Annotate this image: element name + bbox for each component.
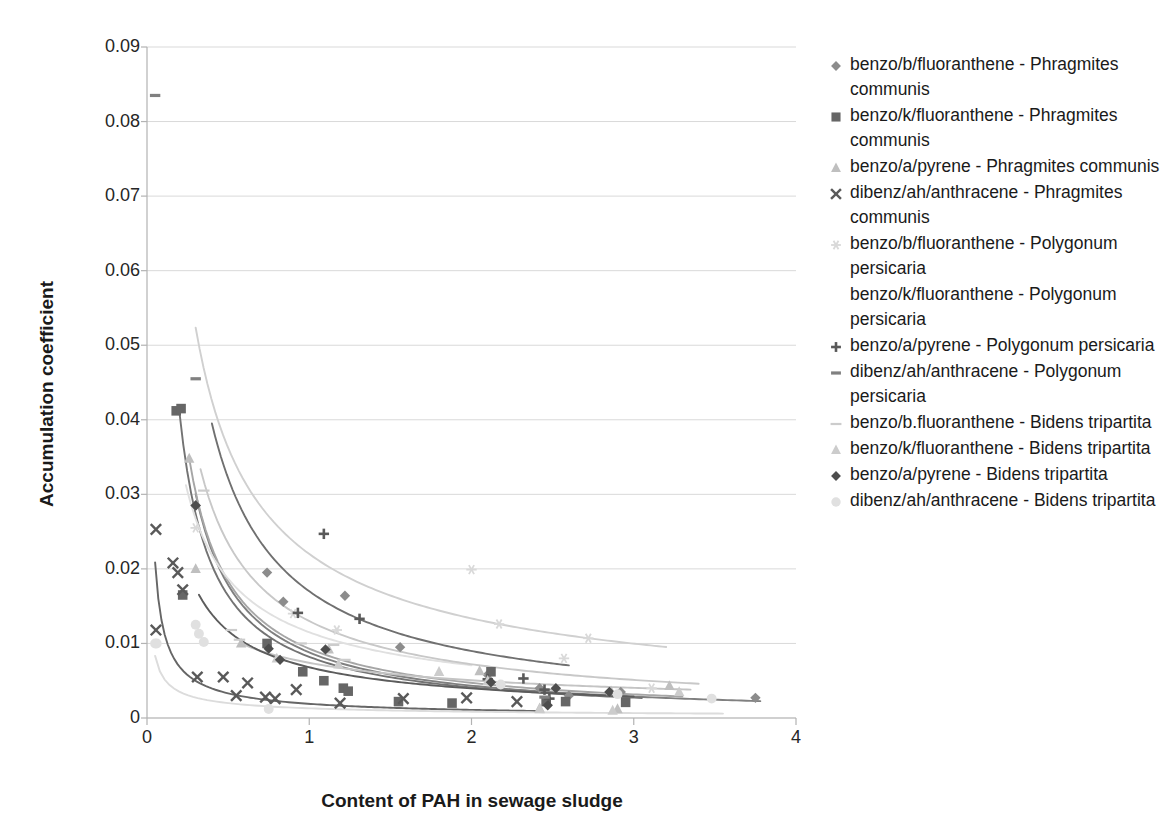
legend-item[interactable]: benzo/a/pyrene - Polygonum persicaria: [826, 333, 1171, 358]
marker-line: [198, 490, 209, 492]
marker-asterisk: [831, 241, 841, 250]
marker-plus: [354, 614, 364, 624]
legend-item[interactable]: benzo/k/fluoranthene - Phragmites commun…: [826, 103, 1171, 153]
marker-plus: [518, 673, 528, 683]
marker-line: [328, 644, 339, 646]
legend-label: benzo/b.fluoranthene - Bidens tripartita: [850, 410, 1152, 435]
marker-diamond: [278, 596, 288, 606]
legend-label: benzo/k/fluoranthene - Bidens tripartita: [850, 436, 1151, 461]
legend-item[interactable]: dibenz/ah/anthracene - Bidens tripartita: [826, 488, 1171, 513]
legend-item[interactable]: benzo/a/pyrene - Bidens tripartita: [826, 462, 1171, 487]
marker-square: [561, 697, 571, 707]
marker-cross: [218, 672, 228, 682]
marker-cross: [335, 698, 345, 708]
legend-item[interactable]: dibenz/ah/anthracene - Phragmites commun…: [826, 180, 1171, 230]
marker-line: [831, 423, 842, 425]
marker-square: [447, 698, 457, 708]
marker-square: [343, 686, 353, 696]
marker-asterisk: [583, 634, 593, 643]
marker-dash: [539, 696, 549, 699]
legend-label: dibenz/ah/anthracene - Polygonum persica…: [850, 359, 1171, 409]
legend-marker-diamond-icon: [826, 52, 850, 74]
axis-lines: [141, 47, 796, 725]
marker-cross: [831, 189, 841, 199]
legend-marker-asterisk-icon: [826, 231, 850, 253]
legend-marker-dash-icon: [826, 359, 850, 381]
marker-dash: [150, 94, 160, 97]
legend-item[interactable]: benzo/k/fluoranthene - Polygonum persica…: [826, 282, 1171, 332]
marker-cross: [512, 696, 522, 706]
marker-line: [226, 629, 237, 631]
marker-cross: [270, 693, 280, 703]
legend-marker-none-icon: [826, 282, 850, 304]
trend-curve-series-1: [179, 412, 641, 698]
marker-line: [234, 639, 245, 641]
marker-line: [295, 642, 306, 644]
chart-legend: benzo/b/fluoranthene - Phragmites commun…: [826, 52, 1171, 514]
legend-marker-triangle-icon: [826, 154, 850, 176]
legend-label: dibenz/ah/anthracene - Bidens tripartita: [850, 488, 1155, 513]
trend-curve-series-4: [196, 328, 667, 647]
legend-item[interactable]: benzo/b/fluoranthene - Polygonum persica…: [826, 231, 1171, 281]
marker-triangle: [674, 686, 684, 696]
trend-curve-series-6: [212, 424, 569, 666]
legend-marker-circle-icon: [826, 488, 850, 510]
trend-curves: [155, 328, 760, 714]
legend-item[interactable]: benzo/b/fluoranthene - Phragmites commun…: [826, 52, 1171, 102]
legend-marker-square-icon: [826, 103, 850, 125]
marker-circle: [152, 639, 162, 649]
marker-dash: [190, 377, 200, 380]
marker-asterisk: [559, 654, 569, 663]
legend-label: benzo/a/pyrene - Polygonum persicaria: [850, 333, 1154, 358]
marker-plus: [319, 529, 329, 539]
chart-container: Accumulation coefficient Content of PAH …: [0, 0, 1174, 839]
marker-cross: [168, 558, 178, 568]
marker-circle: [831, 497, 840, 506]
legend-item[interactable]: benzo/b.fluoranthene - Bidens tripartita: [826, 410, 1171, 435]
marker-cross: [242, 678, 252, 688]
trend-curve-series-8: [201, 469, 699, 683]
marker-cross: [192, 672, 202, 682]
marker-diamond: [340, 591, 350, 601]
marker-circle: [496, 680, 506, 690]
legend-label: dibenz/ah/anthracene - Phragmites commun…: [850, 180, 1171, 230]
legend-label: benzo/a/pyrene - Bidens tripartita: [850, 462, 1108, 487]
legend-label: benzo/k/fluoranthene - Polygonum persica…: [850, 282, 1171, 332]
marker-line: [339, 659, 350, 661]
legend-label: benzo/k/fluoranthene - Phragmites commun…: [850, 103, 1171, 153]
marker-cross: [291, 684, 301, 694]
marker-triangle: [831, 445, 841, 454]
legend-label: benzo/b/fluoranthene - Polygonum persica…: [850, 231, 1171, 281]
marker-triangle: [474, 665, 484, 675]
legend-marker-triangle-icon: [826, 436, 850, 458]
legend-label: benzo/b/fluoranthene - Phragmites commun…: [850, 52, 1171, 102]
marker-triangle: [190, 563, 200, 573]
marker-asterisk: [494, 620, 504, 629]
marker-asterisk: [646, 684, 656, 693]
marker-square: [831, 112, 840, 121]
marker-triangle: [831, 163, 841, 172]
marker-circle: [191, 620, 201, 630]
marker-square: [298, 667, 308, 677]
marker-diamond: [831, 471, 841, 481]
marker-circle: [707, 694, 717, 704]
marker-diamond: [831, 61, 841, 71]
marker-asterisk: [466, 565, 476, 574]
marker-triangle: [434, 666, 444, 676]
legend-item[interactable]: dibenz/ah/anthracene - Polygonum persica…: [826, 359, 1171, 409]
legend-item[interactable]: benzo/a/pyrene - Phragmites communis: [826, 154, 1171, 179]
marker-circle: [613, 689, 623, 699]
legend-marker-plus-icon: [826, 333, 850, 355]
legend-marker-diamond-icon: [826, 462, 850, 484]
marker-cross: [151, 524, 161, 534]
data-points: [150, 94, 761, 715]
legend-marker-cross-icon: [826, 180, 850, 202]
marker-cross: [151, 625, 161, 635]
marker-circle: [264, 704, 274, 714]
series-8: [198, 490, 351, 661]
legend-label: benzo/a/pyrene - Phragmites communis: [850, 154, 1159, 179]
marker-square: [176, 404, 186, 414]
series-11: [150, 620, 716, 714]
legend-item[interactable]: benzo/k/fluoranthene - Bidens tripartita: [826, 436, 1171, 461]
marker-dash: [831, 371, 841, 374]
